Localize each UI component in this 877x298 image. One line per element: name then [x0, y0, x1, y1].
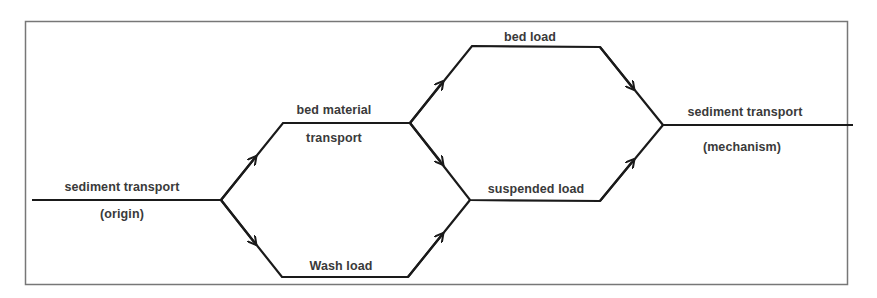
- arrow-icon: [600, 47, 632, 87]
- label-origin-sub: (origin): [100, 207, 144, 221]
- label-bed-material: bed material: [297, 103, 372, 117]
- label-suspended-load: suspended load: [488, 182, 585, 196]
- edge-bed-material-to-bed-load: [410, 46, 663, 125]
- arrow-icon: [221, 159, 254, 200]
- arrow-icon: [600, 162, 632, 201]
- arrow-icon: [410, 123, 441, 162]
- label-bed-material-transport: transport: [306, 131, 362, 145]
- label-mechanism-sub: (mechanism): [703, 140, 781, 154]
- label-wash-load: Wash load: [310, 259, 373, 273]
- arrow-icon: [408, 236, 441, 277]
- label-bed-load: bed load: [504, 30, 556, 44]
- arrow-icon: [410, 84, 441, 123]
- label-mechanism-title: sediment transport: [687, 105, 802, 119]
- label-origin-title: sediment transport: [64, 180, 179, 194]
- arrow-icon: [221, 200, 254, 242]
